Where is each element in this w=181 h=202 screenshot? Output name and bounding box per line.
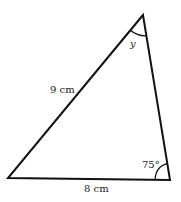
angle-label-y: y (130, 38, 136, 49)
angle-label-75: 75° (142, 159, 160, 170)
triangle-diagram: 9 cm 8 cm y 75° (0, 0, 181, 202)
side-label-left: 9 cm (50, 84, 75, 95)
side-label-bottom: 8 cm (84, 183, 109, 194)
angle-arc-y (131, 30, 147, 36)
triangle-shape (0, 0, 181, 202)
